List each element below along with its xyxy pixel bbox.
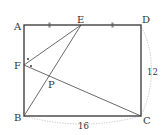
label-b: B [14, 112, 21, 123]
angle-dot-1 [27, 58, 29, 60]
label-p: P [48, 79, 55, 90]
segment-fe [24, 25, 81, 65]
measure-cd: 12 [147, 67, 158, 77]
segment-be [24, 25, 81, 116]
measure-bc: 16 [78, 121, 89, 131]
label-c: C [143, 115, 151, 126]
rectangle-abcd [24, 25, 141, 116]
label-e: E [77, 14, 84, 25]
segment-fc [24, 65, 141, 116]
label-a: A [13, 21, 22, 32]
angle-dot-2 [30, 65, 32, 67]
label-f: F [14, 60, 21, 71]
label-d: D [142, 14, 150, 25]
geometry-diagram: A E D F P B C 12 16 [0, 0, 164, 135]
